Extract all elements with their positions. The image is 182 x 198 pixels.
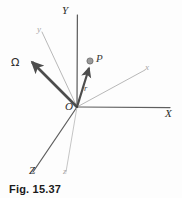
axis-label-Y: Y	[62, 5, 68, 16]
position-vector-r-label: r	[84, 84, 87, 93]
axis-line-z-small	[66, 107, 77, 172]
figure-caption: Fig. 15.37	[9, 183, 61, 195]
axis-label-x-small: x	[145, 63, 149, 72]
point-P-marker	[87, 58, 93, 64]
omega-vector-label: Ω	[11, 57, 19, 68]
axis-line-y-small	[42, 32, 77, 107]
axis-label-X: X	[165, 108, 172, 119]
origin-marker	[76, 106, 78, 108]
origin-label-O: O	[65, 101, 73, 112]
axis-line-X	[77, 107, 170, 108]
vector-diagram	[0, 0, 182, 198]
axis-label-Z: Z	[29, 165, 35, 176]
axis-label-z-small: z	[63, 167, 67, 176]
axis-label-y-small: y	[37, 25, 41, 34]
axis-line-Z	[33, 107, 77, 172]
point-P-label: P	[96, 53, 103, 64]
figure-container: Y X Z x y z O Ω r P Fig. 15.37	[0, 0, 182, 198]
